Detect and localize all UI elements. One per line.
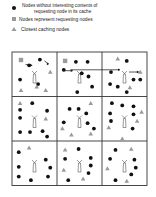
legend-caching-label: Closest caching nodes [21,27,70,32]
caching-node [43,88,48,92]
node [74,60,78,64]
antenna-icon [122,160,127,163]
antenna-icon [77,116,82,119]
arrow-head-icon [118,69,120,72]
caching-node [19,88,24,92]
node [89,164,93,168]
caching-node [27,145,32,149]
node [116,85,120,89]
requesting-node [63,59,67,63]
node [134,166,138,170]
caching-node [128,85,133,89]
node [29,178,33,182]
base-station-tower-icon [123,119,126,128]
node [27,63,31,67]
node [17,175,21,179]
request-path-arrow [44,61,49,64]
node [38,58,42,62]
node [120,104,124,108]
caching-node [135,119,140,123]
node [84,112,88,116]
caching-node [106,125,111,129]
caching-node [61,168,66,172]
node [48,166,52,170]
caching-node [139,110,144,114]
node [109,70,113,74]
node [114,148,118,152]
node [92,127,96,131]
node [132,104,136,108]
caching-node [120,136,125,140]
node [125,90,129,94]
node [80,71,84,75]
node [87,75,91,79]
caching-node [129,147,134,151]
cell-grid [12,52,147,186]
node [108,82,112,86]
node [132,78,136,82]
base-station-tower-icon [78,163,81,172]
antenna-icon [122,116,127,119]
node [18,116,22,120]
legend: Nodes without interesting contents of re… [12,3,99,32]
node [62,68,66,72]
node [18,108,22,112]
network-grid-diagram: Nodes without interesting contents of re… [0,0,156,197]
node [131,127,135,131]
node [46,175,50,179]
node [89,156,93,160]
base-station-tower-icon [78,74,81,83]
caching-node [115,56,120,60]
node [75,90,79,94]
node [114,178,118,182]
requesting-node [19,58,23,62]
caching-node [69,132,74,136]
base-station-tower-icon [33,119,36,128]
legend-requesting-label: Nodes represent requesting nodes [19,17,93,22]
caching-node [43,116,48,120]
node [68,107,72,111]
caching-node [124,179,129,183]
caching-node [88,101,93,105]
node [108,157,112,161]
black-circle-node-icon [12,6,16,10]
legend-node-label-line1: Nodes without interesting contents of [22,3,98,8]
node [41,129,45,133]
node [77,147,81,151]
base-station-tower-icon [78,119,81,128]
base-station-tower-icon [33,74,36,83]
node [30,101,34,105]
antenna-icon [32,160,37,163]
node [45,135,49,139]
node [110,101,114,105]
base-station-tower-icon [33,163,36,172]
node [28,130,32,134]
antenna-icon [32,71,37,74]
node [18,78,22,82]
node [63,157,67,161]
node [86,121,90,125]
node [90,85,94,89]
base-station-tower-icon [123,163,126,172]
node [77,107,81,111]
node [86,60,90,64]
caching-node [88,132,93,136]
node [138,78,142,82]
gray-square-requesting-node-icon [12,17,16,21]
antenna-icon [122,71,127,74]
node [108,112,112,116]
caching-node [48,70,53,74]
node [44,158,48,162]
node [132,112,136,116]
node [66,178,70,182]
caching-node [63,148,68,152]
node [133,158,137,162]
gray-triangle-caching-node-icon [12,27,17,31]
node [125,59,129,63]
legend-node-label-line2: requesting node in its cache [34,9,92,14]
base-station-tower-icon [123,74,126,83]
caching-node [81,177,86,181]
node [17,165,21,169]
node [109,119,113,123]
node [18,130,22,134]
